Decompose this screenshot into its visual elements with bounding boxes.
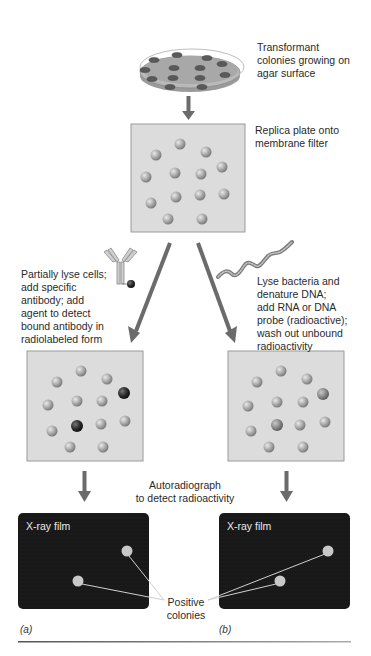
text-line: agent to detect: [21, 307, 107, 320]
xray-film-a-title: X-ray film: [26, 520, 70, 532]
label-positive-colonies: Positive colonies: [150, 596, 222, 622]
membrane-filter-b: [228, 351, 344, 461]
label-replica-plate: Replica plate onto membrane filter: [255, 124, 339, 150]
text-line: Positive: [150, 596, 222, 609]
text-line: add RNA or DNA: [257, 301, 347, 314]
label-autoradiograph: Autoradiograph to detect radioactivity: [120, 479, 250, 505]
text-line: denature DNA;: [257, 288, 347, 301]
text-line: Replica plate onto: [255, 124, 339, 137]
text-line: colonies growing on: [257, 54, 350, 67]
text-line: wash out unbound: [257, 327, 347, 340]
panel-label-b: (b): [219, 624, 231, 635]
text-line: membrane filter: [255, 137, 339, 150]
text-line: Transformant: [257, 41, 350, 54]
text-line: colonies: [150, 609, 222, 622]
text-line: antibody; add: [21, 294, 107, 307]
panel-label-a: (a): [20, 624, 32, 635]
text-line: to detect radioactivity: [120, 492, 250, 505]
petri-dish-icon: [140, 49, 244, 92]
divider: [18, 641, 351, 643]
xray-film-a-label-box: X-ray film: [18, 513, 149, 609]
text-line: add specific: [21, 281, 107, 294]
membrane-filter-a: [27, 351, 143, 461]
arrow-down-icon: [182, 96, 195, 120]
label-transformant-colonies: Transformant colonies growing on agar su…: [257, 41, 350, 80]
arrow-down-b-icon: [280, 471, 293, 502]
arrow-down-a-icon: [78, 471, 91, 502]
antibody-icon: [104, 248, 137, 288]
label-probe-path: Lyse bacteria and denature DNA; add RNA …: [257, 275, 347, 353]
text-line: Partially lyse cells;: [21, 268, 107, 281]
arrow-to-antibody-path-icon: [128, 243, 170, 343]
nucleic-acid-probe-icon: [218, 242, 292, 277]
text-line: radioactivity: [257, 340, 347, 353]
text-line: bound antibody in: [21, 320, 107, 333]
text-line: agar surface: [257, 67, 350, 80]
text-line: probe (radioactive);: [257, 314, 347, 327]
membrane-filter: [131, 124, 245, 232]
text-line: radiolabeled form: [21, 333, 107, 346]
arrow-to-probe-path-icon: [198, 243, 237, 343]
text-line: Lyse bacteria and: [257, 275, 347, 288]
xray-film-b-title: X-ray film: [227, 520, 271, 532]
label-antibody-path: Partially lyse cells; add specific antib…: [21, 268, 107, 346]
text-line: Autoradiograph: [120, 479, 250, 492]
xray-film-b-label-box: X-ray film: [219, 513, 350, 609]
